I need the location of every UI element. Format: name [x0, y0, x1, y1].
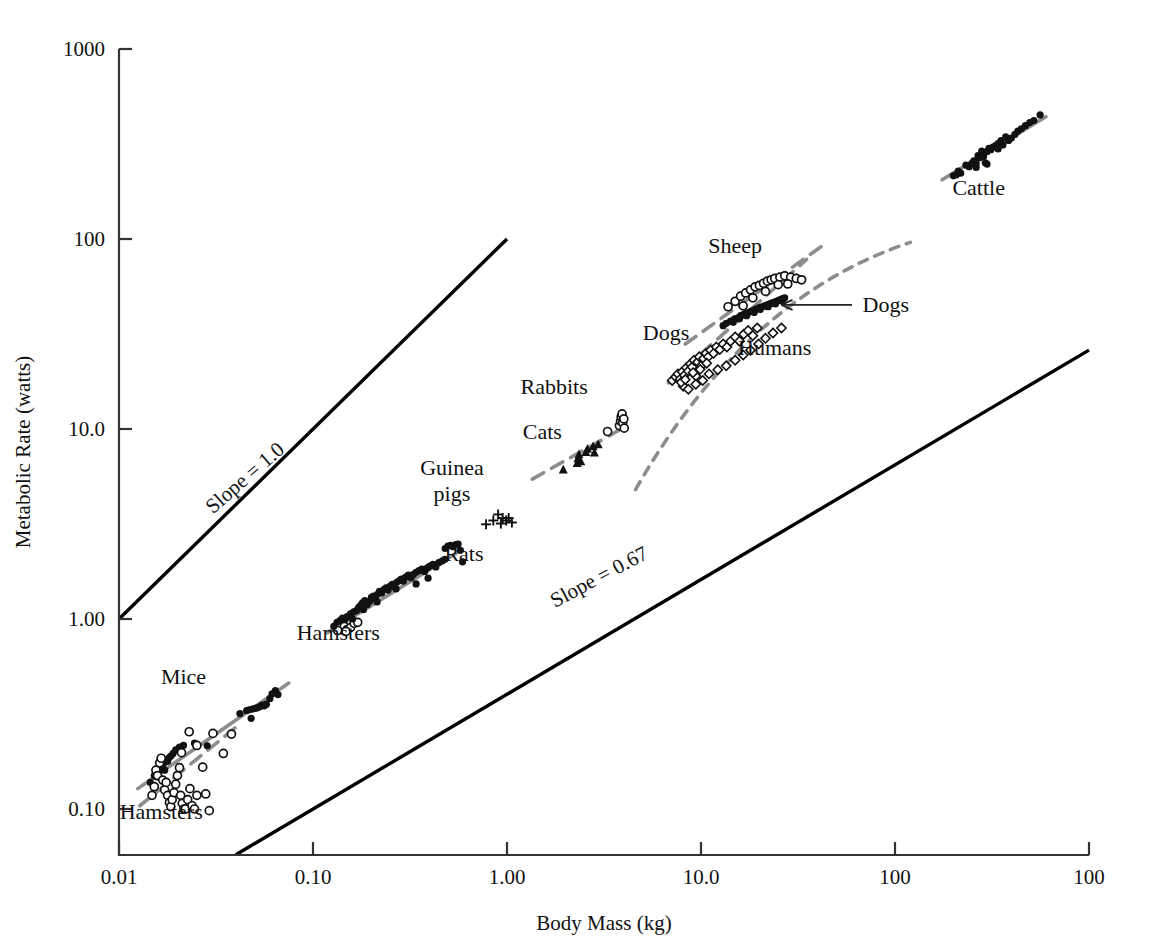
point-hamsters-small [185, 728, 193, 736]
point-humans [729, 319, 736, 326]
point-cats [559, 465, 568, 474]
point-cattle [983, 160, 990, 167]
callout-label-dogs: Dogs [863, 292, 909, 317]
group-label-guinea-pigs: Guinea [420, 455, 484, 480]
point-rabbits [620, 424, 628, 432]
point-rabbits [620, 415, 628, 423]
point-humans [736, 315, 743, 322]
point-hamsters-small [173, 772, 181, 780]
point-hamsters-small [157, 754, 165, 762]
point-mice [161, 767, 168, 774]
point-hamsters-small [227, 730, 235, 738]
point-cattle [1037, 111, 1044, 118]
x-tick-label: 1.00 [489, 865, 526, 889]
point-cattle [983, 148, 990, 155]
point-dogs [713, 365, 722, 374]
point-hamsters-small [162, 778, 170, 786]
point-humans [757, 306, 764, 313]
slope-label: Slope = 0.67 [546, 541, 652, 612]
x-tick-label: 0.10 [295, 865, 332, 889]
point-humans [743, 312, 750, 319]
point-sheep [774, 281, 782, 289]
group-label-sheep: Sheep [708, 233, 762, 258]
labels-group: 0.010.101.0010.0100100100010010.01.000.1… [11, 37, 1105, 935]
chart-canvas: 0.010.101.0010.0100100100010010.01.000.1… [0, 0, 1153, 950]
point-hamsters-small [193, 741, 201, 749]
x-axis-title: Body Mass (kg) [536, 911, 671, 935]
point-hamsters-small [186, 785, 194, 793]
point-cattle [973, 164, 980, 171]
slope-label: Slope = 1.0 [201, 437, 290, 518]
group-label-dogs: Dogs [643, 320, 689, 345]
data-markers-group [147, 111, 1044, 814]
point-mice [274, 691, 281, 698]
point-sheep [784, 280, 792, 288]
x-tick-label: 0.01 [101, 865, 138, 889]
point-mice [248, 715, 255, 722]
point-hamsters-small [150, 783, 158, 791]
x-tick-label: 100 [1073, 865, 1105, 889]
x-tick-label: 10.0 [683, 865, 720, 889]
y-tick-label: 0.10 [68, 797, 105, 821]
point-sheep [761, 287, 769, 295]
group-label-rabbits: Rabbits [521, 374, 588, 399]
point-mice [204, 742, 211, 749]
point-cattle [1030, 117, 1037, 124]
point-mice [236, 710, 243, 717]
group-label-hamsters-small: Hamsters [120, 799, 203, 824]
x-tick-label: 100 [879, 865, 911, 889]
point-rats [424, 575, 431, 582]
point-hamsters-small [178, 749, 186, 757]
y-tick-label: 1000 [63, 37, 105, 61]
group-label-hamsters-large: Hamsters [297, 620, 380, 645]
y-tick-label: 10.0 [68, 417, 105, 441]
group-label-cattle: Cattle [952, 175, 1005, 200]
point-sheep [798, 276, 806, 284]
point-hamsters-small [219, 749, 227, 757]
point-hamsters-small [172, 780, 180, 788]
group-label-mice: Mice [161, 664, 206, 689]
group-label-rats: Rats [444, 541, 483, 566]
group-label-cats: Cats [523, 419, 562, 444]
point-rats [360, 606, 367, 613]
group-label-guinea-pigs-line2: pigs [434, 481, 471, 506]
group-label-humans: Humans [738, 335, 811, 360]
point-rats [413, 580, 420, 587]
point-hamsters-small [202, 790, 210, 798]
y-tick-label: 100 [74, 227, 106, 251]
point-rats [392, 585, 399, 592]
y-tick-label: 1.00 [68, 607, 105, 631]
point-humans [720, 322, 727, 329]
point-cattle [995, 145, 1002, 152]
point-dogs [777, 323, 786, 332]
point-rats [374, 598, 381, 605]
point-hamsters-small [175, 764, 183, 772]
point-humans [772, 300, 779, 307]
point-sheep [749, 294, 757, 302]
point-humans [765, 303, 772, 310]
point-sheep [739, 302, 747, 310]
point-sheep [724, 303, 732, 311]
point-hamsters-small [209, 729, 217, 737]
point-hamsters-small [205, 807, 213, 815]
point-hamsters-small [199, 763, 207, 771]
y-axis-title: Metabolic Rate (watts) [11, 356, 35, 548]
metabolic-rate-scatter-chart: 0.010.101.0010.0100100100010010.01.000.1… [0, 0, 1153, 950]
reference-lines-group [119, 239, 1089, 855]
point-rabbits [604, 428, 612, 436]
